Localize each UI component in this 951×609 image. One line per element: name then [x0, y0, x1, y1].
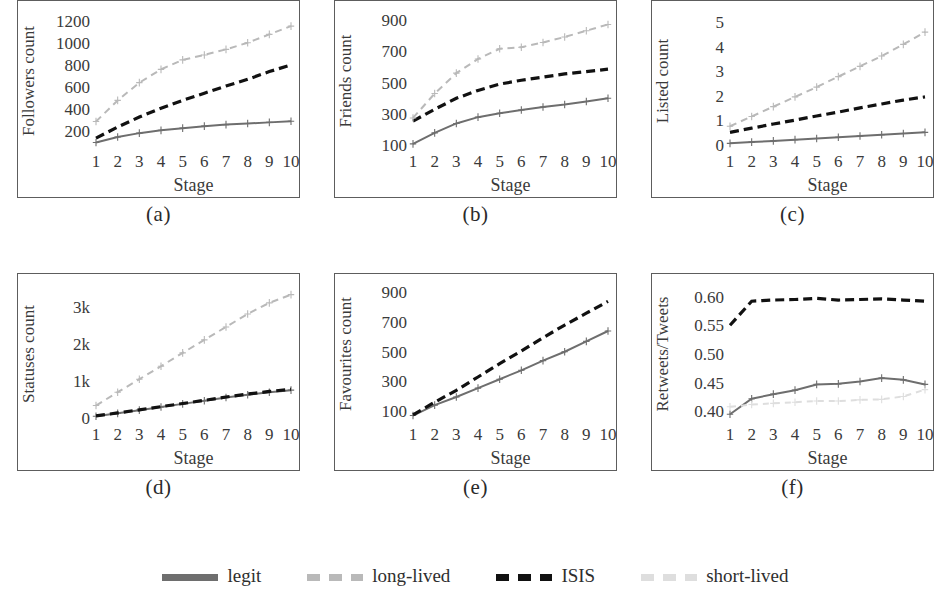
x-tick-label: 8 [877, 425, 886, 444]
series-line-isis [413, 301, 608, 414]
series-marker [496, 375, 502, 383]
series-marker [878, 395, 884, 403]
x-tick-label: 4 [157, 425, 166, 444]
series-marker [453, 393, 459, 401]
x-tick-label: 1 [409, 152, 418, 171]
series-marker [878, 131, 884, 139]
series-marker [410, 140, 416, 148]
x-tick-label: 4 [157, 152, 166, 171]
series-marker [583, 337, 589, 345]
series-marker [201, 51, 207, 59]
y-tick-label: 1k [73, 371, 91, 390]
x-tick-label: 5 [178, 425, 187, 444]
series-marker [561, 33, 567, 41]
series-marker [201, 396, 207, 404]
series-marker [158, 66, 164, 74]
x-tick-label: 1 [726, 152, 735, 171]
series-marker [605, 21, 611, 29]
y-tick-label: 0.55 [694, 316, 724, 335]
legend-item-isis: ISIS [496, 565, 595, 587]
y-tick-label: 600 [65, 78, 91, 97]
subplot-grid: 2004006008001000120012345678910StageFoll… [0, 0, 951, 545]
y-axis-label: Statuses count [19, 304, 38, 402]
subplot-cell-d: 01k2k3k12345678910StageStatuses count (d… [0, 273, 317, 546]
x-tick-label: 2 [747, 152, 756, 171]
series-marker [114, 133, 120, 141]
x-tick-label: 2 [113, 152, 122, 171]
series-marker [583, 27, 589, 35]
chart-panel-e: 10030050070090012345678910StageFavourite… [334, 273, 617, 471]
chart-panel-b: 10030050070090012345678910StageFriends c… [334, 0, 617, 198]
series-marker [518, 366, 524, 374]
series-marker [857, 63, 863, 71]
x-tick-label: 9 [265, 152, 274, 171]
series-marker [878, 374, 884, 382]
x-tick-label: 7 [856, 425, 865, 444]
x-tick-label: 1 [92, 152, 101, 171]
series-marker [266, 31, 272, 39]
series-marker [605, 94, 611, 102]
x-tick-label: 10 [283, 425, 300, 444]
series-marker [727, 122, 733, 130]
x-tick-label: 10 [283, 152, 300, 171]
series-marker [496, 109, 502, 117]
series-line-legit [413, 331, 608, 416]
y-tick-label: 1000 [56, 34, 90, 53]
y-tick-label: 2k [73, 334, 91, 353]
series-marker [201, 122, 207, 130]
series-marker [835, 397, 841, 405]
x-tick-label: 6 [834, 152, 843, 171]
series-marker [727, 403, 733, 411]
series-marker [857, 377, 863, 385]
series-marker [748, 113, 754, 121]
x-tick-label: 5 [495, 425, 504, 444]
series-line-long-lived [96, 294, 291, 405]
chart-panel-f: 0.400.450.500.550.6012345678910StageRetw… [651, 273, 934, 471]
chart-panel-c: 01234512345678910StageListed count [651, 0, 934, 198]
series-line-legit [730, 132, 925, 143]
y-tick-label: 100 [382, 136, 408, 155]
legend-item-long-lived: long-lived [307, 565, 450, 587]
x-tick-label: 9 [899, 152, 908, 171]
x-tick-label: 1 [409, 425, 418, 444]
y-axis-label: Retweets/Tweets [653, 296, 672, 411]
x-axis-label: Stage [174, 448, 214, 468]
x-tick-label: 1 [92, 425, 101, 444]
subplot-cell-f: 0.400.450.500.550.6012345678910StageRetw… [634, 273, 951, 546]
x-tick-label: 8 [560, 425, 569, 444]
x-axis-label: Stage [808, 448, 848, 468]
x-tick-label: 9 [899, 425, 908, 444]
legend-label-isis: ISIS [561, 565, 595, 587]
subplot-cell-b: 10030050070090012345678910StageFriends c… [317, 0, 634, 273]
y-tick-label: 3 [716, 62, 725, 81]
x-tick-label: 10 [917, 425, 934, 444]
y-tick-label: 2 [716, 87, 725, 106]
y-tick-label: 400 [65, 100, 91, 119]
series-marker [835, 73, 841, 81]
x-tick-label: 9 [582, 425, 591, 444]
x-tick-label: 6 [834, 425, 843, 444]
series-marker [540, 356, 546, 364]
x-tick-label: 7 [856, 152, 865, 171]
y-tick-label: 500 [382, 342, 408, 361]
series-marker [475, 384, 481, 392]
subplot-caption-c: (c) [780, 202, 805, 227]
y-tick-label: 700 [382, 313, 408, 332]
y-tick-label: 1200 [56, 12, 90, 31]
x-tick-label: 9 [265, 425, 274, 444]
x-tick-label: 4 [791, 152, 800, 171]
series-marker [900, 392, 906, 400]
series-line-long-lived [730, 32, 925, 126]
x-tick-label: 2 [747, 425, 756, 444]
series-marker [179, 349, 185, 357]
figure-panel-grid: 2004006008001000120012345678910StageFoll… [0, 0, 951, 609]
y-axis-label: Followers count [19, 26, 38, 136]
y-tick-label: 0.50 [694, 345, 724, 364]
series-marker [900, 376, 906, 384]
x-axis-label: Stage [491, 175, 531, 195]
series-marker [540, 39, 546, 47]
series-marker [792, 386, 798, 394]
x-tick-label: 4 [791, 425, 800, 444]
series-marker [244, 310, 250, 318]
x-tick-label: 3 [452, 152, 461, 171]
